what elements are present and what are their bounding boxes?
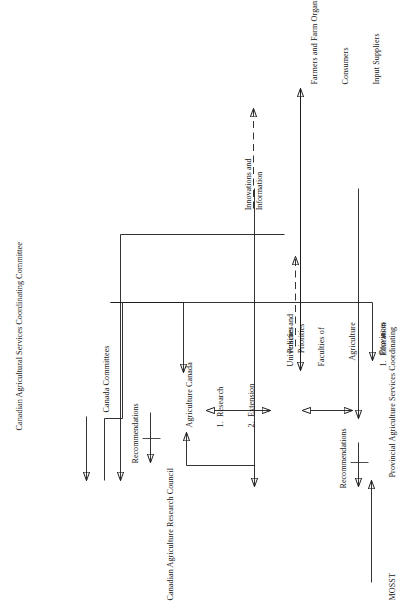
node-canadian-agriculture-research-council: Canadian Agriculture Research Council — [144, 468, 196, 600]
edge-spine-to-agriculture-canada — [186, 432, 254, 465]
figure-title: Canadian Agricultural Services Coordinat… — [14, 242, 25, 430]
node-agriculture-canada-item-1: 1. Research — [215, 362, 225, 427]
edge-elbow-universities-to-carc — [120, 234, 284, 480]
edge-label-recommendations-right: Recommendations — [130, 403, 140, 463]
edge-label-recommendations-left: Recommendations — [338, 428, 348, 488]
node-farmers-line3: Input Suppliers — [371, 0, 381, 84]
node-provinces-department-of-agriculture: Provinces Department of Agriculture 1. E… — [356, 306, 407, 354]
node-carc-label: Canadian Agriculture Research Council — [165, 468, 175, 600]
node-canada-committees-label: Canada Committees — [101, 345, 111, 412]
node-universities-title-line2: Faculties of — [316, 313, 326, 366]
node-mosst-label: MOSST — [387, 573, 397, 601]
connector-layer — [0, 0, 407, 608]
edge-label-innovations-and-information: Innovations and Information — [233, 158, 275, 222]
node-agriculture-canada-item-2: 2. Extension — [246, 362, 256, 427]
node-mosst: MOSST — [366, 573, 407, 601]
node-farmers-line2: Consumers — [340, 0, 350, 84]
node-canada-committees: Canada Committees — [80, 345, 132, 412]
edge-label-innovations-line2: Information — [254, 171, 263, 210]
edge-label-policies-and-priorities: Policies and Priorities — [275, 314, 317, 365]
figure-canvas: Canadian Agricultural Services Coordinat… — [0, 0, 407, 608]
edge-label-policies-line2: Priorities — [296, 323, 305, 353]
node-provinces-title-line1: Provinces — [377, 306, 387, 354]
node-agriculture-canada: Agriculture Canada 1. Research 2. Extens… — [163, 362, 277, 427]
node-farmers-and-farm-organizations: Farmers and Farm Organizations Consumers… — [288, 0, 402, 84]
node-agriculture-canada-title: Agriculture Canada — [184, 362, 194, 427]
node-farmers-line1: Farmers and Farm Organizations — [309, 0, 319, 84]
edge-label-innovations-line1: Innovations and — [243, 158, 252, 210]
figure-rotated-layer: Canadian Agricultural Services Coordinat… — [0, 0, 407, 608]
edge-label-policies-line1: Policies and — [285, 314, 294, 353]
